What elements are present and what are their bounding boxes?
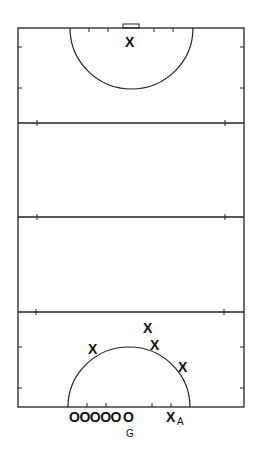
attacker-x-a: X [166, 409, 176, 425]
court-diagram: X X X X X OOOOO O G X A [0, 0, 257, 453]
goalkeeper-label: G [126, 428, 134, 439]
player-x-top: X [125, 34, 135, 50]
goal-circle-bottom [68, 347, 190, 407]
baseline-defenders: OOOOO [69, 409, 122, 425]
attacker-x-1: X [88, 341, 98, 357]
attacker-x-4: X [178, 359, 188, 375]
attacker-x-3: X [150, 337, 160, 353]
attacker-x-2: X [143, 320, 153, 336]
attacker-a-label: A [177, 416, 184, 427]
goalkeeper-o: O [123, 409, 134, 425]
